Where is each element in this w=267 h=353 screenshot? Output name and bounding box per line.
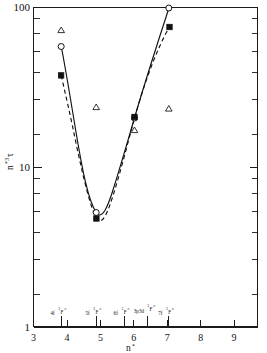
svg-text:6f: 6f <box>114 310 119 316</box>
svg-text:o: o <box>64 307 66 311</box>
axes-frame <box>34 7 259 327</box>
x-config-ticks <box>61 316 169 327</box>
svg-text:F: F <box>124 309 127 315</box>
svg-text:*3: *3 <box>3 158 10 164</box>
config-label-3p3d: 3p3d 3 F o <box>134 304 156 314</box>
data-point-open-circle <box>93 210 99 216</box>
x-tick-label-9: 9 <box>232 332 237 343</box>
svg-text:o: o <box>99 307 101 311</box>
config-label-7f: 7f 3 F o <box>158 307 174 316</box>
svg-text:n: n <box>126 343 131 353</box>
x-tick-label-4: 4 <box>65 332 70 343</box>
markers-filled-square <box>58 24 172 221</box>
svg-text:7f: 7f <box>158 310 163 316</box>
x-tick-label-5: 5 <box>98 332 103 343</box>
y-tick-label-100: 100 <box>14 1 31 13</box>
svg-text:o: o <box>172 307 174 311</box>
configuration-labels: 4f 3 F o 5f 3 F o 6f 3 F o 3p3d 3 F o <box>51 304 175 316</box>
svg-text:F: F <box>168 309 171 315</box>
chart-figure: 100 10 1 3 4 5 6 7 8 9 4f 3 F o 5f 3 F o <box>0 0 267 353</box>
data-point-filled-square <box>58 73 63 78</box>
svg-text:o: o <box>128 307 130 311</box>
data-point-open-triangle <box>93 104 100 110</box>
x-tick-label-7: 7 <box>165 332 170 343</box>
x-axis-title: n * <box>126 342 135 353</box>
config-label-4f: 4f 3 F o <box>51 307 67 316</box>
svg-text:o: o <box>153 304 155 308</box>
svg-text:*: * <box>132 342 135 349</box>
data-point-open-triangle <box>166 106 173 112</box>
chart-canvas: 100 10 1 3 4 5 6 7 8 9 4f 3 F o 5f 3 F o <box>0 0 267 353</box>
svg-text:F: F <box>61 309 64 315</box>
data-point-filled-square <box>94 216 99 221</box>
curve-open-circle-series <box>61 9 169 215</box>
svg-text:τ: τ <box>5 153 15 157</box>
data-point-open-circle <box>58 44 64 50</box>
data-point-filled-square <box>132 114 137 119</box>
svg-text:5f: 5f <box>86 310 91 316</box>
svg-text:F: F <box>150 306 153 312</box>
data-point-filled-square <box>167 24 172 29</box>
data-point-open-triangle <box>58 27 65 33</box>
x-tick-label-3: 3 <box>31 332 36 343</box>
x-major-ticks <box>34 320 235 327</box>
data-curves <box>61 9 169 221</box>
data-point-open-circle <box>166 5 172 11</box>
y-tick-label-10: 10 <box>19 161 31 173</box>
svg-text:4f: 4f <box>51 310 56 316</box>
y-tick-label-1: 1 <box>25 321 31 333</box>
x-tick-label-8: 8 <box>198 332 203 343</box>
config-label-5f: 5f 3 F o <box>86 307 102 316</box>
y-axis-title: n *3 τ <box>3 153 15 170</box>
y-minor-ticks-lower <box>34 179 258 294</box>
svg-text:F: F <box>96 309 99 315</box>
svg-text:3p3d: 3p3d <box>134 308 145 314</box>
svg-text:n: n <box>5 165 15 170</box>
markers-open-triangle <box>58 27 172 133</box>
config-label-6f: 6f 3 F o <box>114 307 130 316</box>
y-major-ticks <box>34 7 258 327</box>
